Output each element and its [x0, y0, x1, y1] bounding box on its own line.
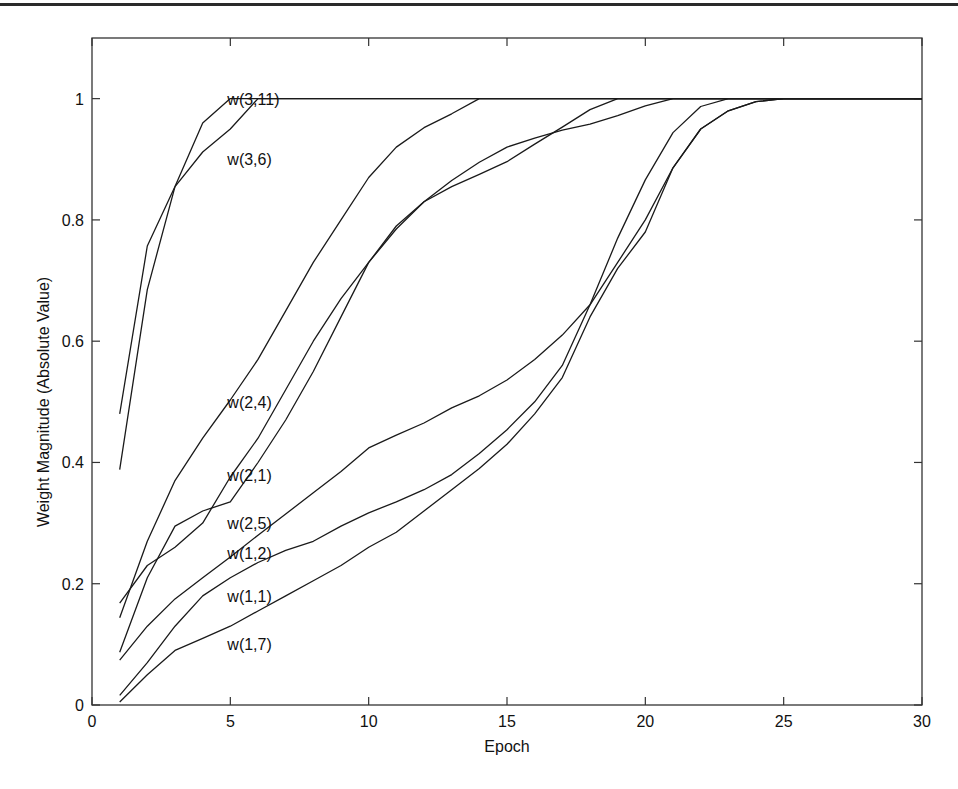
series-label: w(3,6)	[226, 151, 271, 168]
series-line-w-2-4	[120, 99, 922, 618]
x-tick-label: 20	[636, 713, 654, 730]
series-label: w(2,4)	[226, 394, 271, 411]
x-tick-label: 10	[360, 713, 378, 730]
y-tick-label: 0.4	[62, 454, 84, 471]
x-axis-title: Epoch	[484, 738, 529, 755]
y-tick-label: 0.6	[62, 333, 84, 350]
series-labels: w(3,11)w(3,6)w(2,4)w(2,1)w(2,5)w(1,2)w(1…	[226, 91, 279, 654]
plot-frame	[92, 38, 922, 705]
y-tick-label: 0.2	[62, 576, 84, 593]
y-tick-label: 1	[75, 91, 84, 108]
series-label: w(2,1)	[226, 467, 271, 484]
series-line-w-1-2	[120, 99, 922, 661]
series-label: w(3,11)	[226, 91, 279, 108]
x-tick-label: 30	[913, 713, 931, 730]
x-tick-label: 15	[498, 713, 516, 730]
x-tick-label: 5	[226, 713, 235, 730]
y-axis-title: Weight Magnitude (Absolute Value)	[35, 277, 52, 527]
y-axis: 00.20.40.60.81	[62, 91, 922, 714]
series-label: w(2,5)	[226, 515, 271, 532]
series-label: w(1,1)	[226, 588, 271, 605]
series-label: w(1,7)	[226, 636, 271, 653]
series-line-w-2-5	[120, 99, 922, 653]
y-tick-label: 0.8	[62, 212, 84, 229]
series-label: w(1,2)	[226, 545, 271, 562]
y-tick-label: 0	[75, 697, 84, 714]
line-chart: 051015202530 00.20.40.60.81 w(3,11)w(3,6…	[0, 0, 958, 789]
series-line-w-3-11	[120, 99, 922, 414]
plot-area	[92, 38, 922, 705]
x-tick-label: 25	[775, 713, 793, 730]
x-tick-label: 0	[88, 713, 97, 730]
